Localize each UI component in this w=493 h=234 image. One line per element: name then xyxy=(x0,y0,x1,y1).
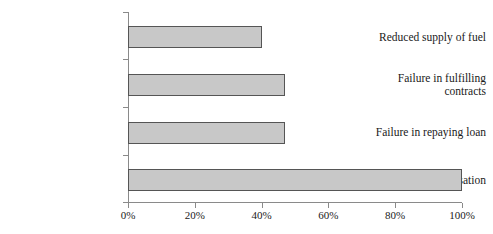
bar-chart: Reduced supply of fuel Failure in fulfil… xyxy=(0,0,493,234)
bar-failure-in-fulfilling-contracts xyxy=(128,74,285,96)
plot-area xyxy=(128,12,462,202)
bar-reduced-supply-of-fuel xyxy=(128,26,262,48)
x-axis-tick xyxy=(128,203,129,208)
bar-failure-in-repaying-loan xyxy=(128,122,285,144)
x-axis-tick xyxy=(195,203,196,208)
x-axis-tick-label: 40% xyxy=(252,209,272,222)
bar-too-low-compensation xyxy=(128,169,462,191)
x-axis-tick-label: 80% xyxy=(385,209,405,222)
x-axis-line xyxy=(128,202,462,203)
x-axis-tick-label: 60% xyxy=(318,209,338,222)
x-axis-tick-label: 0% xyxy=(121,209,136,222)
x-axis-tick-label: 20% xyxy=(185,209,205,222)
x-axis-tick xyxy=(262,203,263,208)
x-axis-tick xyxy=(395,203,396,208)
x-axis-tick-label: 100% xyxy=(449,209,475,222)
x-axis-tick xyxy=(328,203,329,208)
x-axis-tick xyxy=(462,203,463,208)
